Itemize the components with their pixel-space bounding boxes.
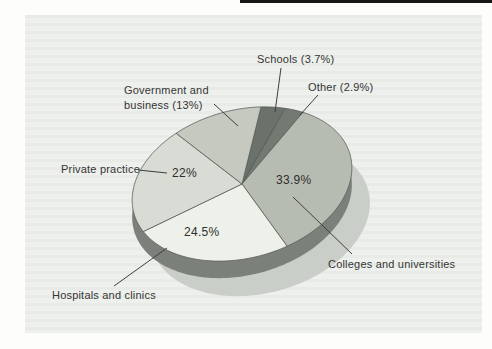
callout-government-and-business: Government and business (13%) bbox=[124, 83, 209, 112]
callout-private-practice: Private practice bbox=[61, 162, 140, 177]
percent-label-colleges: 33.9% bbox=[276, 173, 312, 187]
pointer-line-schools bbox=[275, 68, 281, 112]
callout-hospitals-and-clinics: Hospitals and clinics bbox=[52, 288, 156, 303]
callout-government-line1: Government and bbox=[124, 83, 209, 98]
pointer-line-other bbox=[300, 95, 318, 115]
figure-page: Schools (3.7%) Other (2.9%) Government a… bbox=[0, 0, 492, 349]
callout-other: Other (2.9%) bbox=[308, 80, 373, 95]
pointer-line-hospitals-and-clinics bbox=[114, 248, 167, 286]
percent-label-hospitals: 24.5% bbox=[184, 225, 220, 239]
callout-government-line2: business (13%) bbox=[124, 98, 209, 113]
callout-colleges-and-universities: Colleges and universities bbox=[328, 257, 455, 272]
percent-label-private-practice: 22% bbox=[172, 166, 197, 180]
callout-schools: Schools (3.7%) bbox=[257, 52, 334, 67]
